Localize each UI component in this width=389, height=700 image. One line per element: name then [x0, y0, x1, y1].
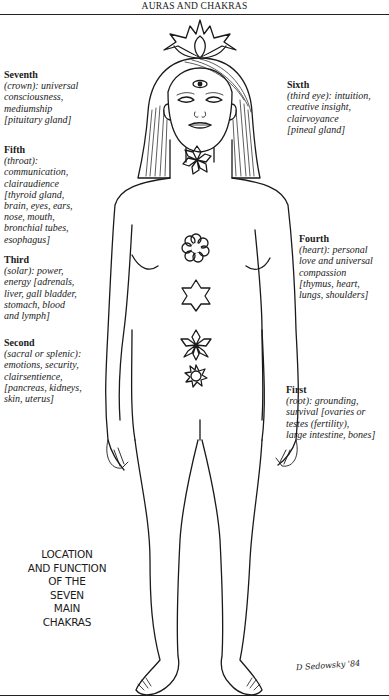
- chakra-label-first: First (root): grounding, survival [ovari…: [286, 384, 389, 440]
- sacral-chakra-symbol: [181, 330, 211, 360]
- chakra-description: (heart): personal love and universal com…: [299, 244, 389, 300]
- root-chakra-symbol: [185, 365, 207, 387]
- figure-caption: LOCATION AND FUNCTION OF THE SEVEN MAIN …: [12, 548, 122, 629]
- chakra-title: Seventh: [4, 69, 114, 80]
- chakra-description: (root): grounding, survival [ovaries or …: [286, 395, 389, 440]
- chakra-title: Sixth: [287, 79, 389, 90]
- chakra-title: Second: [4, 337, 109, 348]
- chakra-description: (sacral or splenic): emotions, security,…: [4, 348, 109, 404]
- chakra-description: (third eye): intuition, creative insight…: [287, 90, 389, 135]
- chakra-title: Fourth: [299, 233, 389, 244]
- chakra-title: Fifth: [4, 144, 109, 155]
- chakra-label-seventh: Seventh (crown): universal consciousness…: [4, 69, 114, 125]
- heart-chakra-symbol: [182, 234, 209, 262]
- chakra-title: First: [286, 384, 389, 395]
- chakra-description: (crown): universal consciousness, medium…: [4, 80, 114, 125]
- chakra-label-sixth: Sixth (third eye): intuition, creative i…: [287, 79, 389, 135]
- solar-plexus-chakra-symbol: [182, 280, 210, 311]
- chakra-label-fourth: Fourth (heart): personal love and univer…: [299, 233, 389, 300]
- chakra-label-second: Second (sacral or splenic): emotions, se…: [4, 337, 109, 404]
- face: [164, 68, 237, 162]
- chakra-label-third: Third (solar): power, energy [adrenals, …: [4, 254, 109, 321]
- chakra-label-fifth: Fifth (throat): communication, clairaudi…: [4, 144, 109, 245]
- chakra-description: (throat): communication, clairaudience […: [4, 155, 109, 245]
- crown-lotus-symbol: [164, 20, 236, 58]
- footer-rule: [0, 695, 389, 696]
- chakra-title: Third: [4, 254, 109, 265]
- chakra-description: (solar): power, energy [adrenals, liver,…: [4, 265, 109, 321]
